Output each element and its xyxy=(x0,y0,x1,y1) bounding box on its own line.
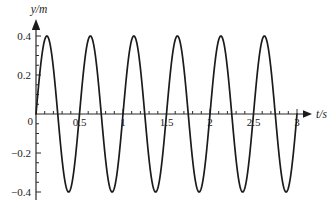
x-axis-arrow-icon xyxy=(303,110,312,118)
y-axis-label: y/m xyxy=(30,3,48,16)
y-tick-label: −0.2 xyxy=(11,147,31,159)
sine-wave-plot: 0.511.522.530.40.2−0.2−0.40y/mt/s xyxy=(0,0,334,209)
y-tick-label: −0.4 xyxy=(11,186,31,198)
x-axis-label: t/s xyxy=(316,108,327,120)
y-axis-arrow-icon xyxy=(32,19,40,30)
oscillation-chart: 0.511.522.530.40.2−0.2−0.40y/mt/s xyxy=(0,0,334,209)
y-tick-label: 0.4 xyxy=(17,30,31,42)
y-tick-label: 0.2 xyxy=(17,69,31,81)
origin-tick-label: 0 xyxy=(28,115,34,127)
